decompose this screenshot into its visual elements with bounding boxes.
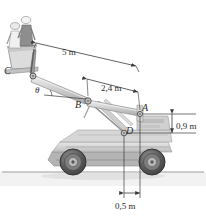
point-label-c: C: [4, 66, 11, 76]
point-label-d: D: [126, 126, 133, 136]
worker-right-figure: [18, 16, 35, 46]
wheel-front: [139, 149, 165, 175]
dimension-label-24m: 2,4 m: [101, 84, 122, 93]
dimension-label-09m: 0,9 m: [176, 122, 197, 131]
dimension-label-05m: 0,5 m: [115, 202, 136, 211]
dimension-line-5m: [34, 43, 139, 72]
angle-label-theta: θ: [35, 86, 39, 95]
diagram-canvas: [0, 0, 206, 218]
engineering-diagram-figure: 5 m 2,4 m 0,9 m 0,5 m C B A D θ: [0, 0, 206, 218]
point-label-a: A: [142, 103, 148, 113]
ground: [0, 172, 206, 186]
wheel-rear: [60, 149, 86, 175]
dimension-label-5m: 5 m: [62, 48, 76, 57]
point-label-b: B: [75, 100, 81, 110]
